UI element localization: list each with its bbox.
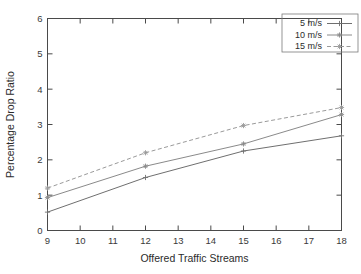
legend-label: 10 m/s — [295, 30, 323, 40]
y-tick-label: 6 — [37, 13, 42, 24]
x-tick-label: 12 — [140, 235, 151, 246]
series-2 — [45, 112, 344, 200]
x-tick-label: 18 — [336, 235, 347, 246]
line-chart: 01234569101112131415161718Offered Traffi… — [0, 0, 361, 274]
y-tick-label: 1 — [37, 190, 42, 201]
x-tick-label: 17 — [304, 235, 315, 246]
y-axis-title: Percentage Drop Ratio — [4, 71, 16, 178]
x-tick-label: 9 — [45, 235, 50, 246]
y-tick-label: 2 — [37, 154, 42, 165]
x-tick-label: 13 — [173, 235, 184, 246]
x-axis-title: Offered Traffic Streams — [140, 252, 248, 264]
legend-label: 15 m/s — [295, 41, 323, 51]
series-line — [48, 108, 342, 189]
x-tick-label: 15 — [238, 235, 249, 246]
x-tick-label: 11 — [108, 235, 118, 246]
series-1 — [45, 133, 344, 215]
y-tick-label: 0 — [37, 225, 42, 236]
x-tick-label: 14 — [206, 235, 217, 246]
series-3 — [45, 105, 344, 191]
y-tick-label: 5 — [37, 48, 42, 59]
x-tick-label: 10 — [75, 235, 86, 246]
chart-figure: 01234569101112131415161718Offered Traffi… — [0, 0, 361, 274]
y-tick-label: 3 — [37, 119, 42, 130]
legend-label: 5 m/s — [300, 18, 323, 28]
y-tick-label: 4 — [37, 84, 42, 95]
series-line — [48, 136, 342, 212]
x-tick-label: 16 — [271, 235, 282, 246]
legend: 5 m/s10 m/s15 m/s — [282, 14, 358, 52]
series-line — [48, 115, 342, 198]
